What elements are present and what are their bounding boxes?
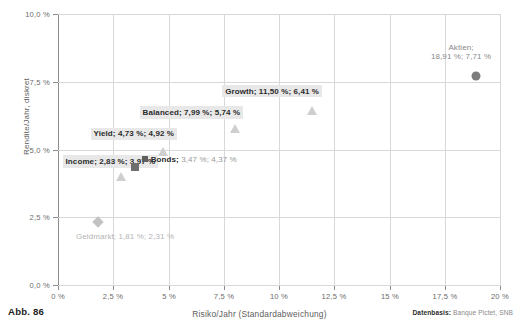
gridline-horizontal [58, 217, 501, 218]
x-tick-mark [279, 286, 280, 290]
data-point-bonds[interactable] [131, 163, 139, 171]
data-point-growth[interactable] [307, 106, 317, 115]
y-axis-title: Rendite/Jahr, diskret [22, 42, 31, 192]
data-label-aktien: Aktien;18,91 %; 7,71 % [431, 43, 491, 61]
x-tick-label: 17,5 % [433, 292, 458, 301]
x-tick-label: 12,5 % [322, 292, 347, 301]
x-tick-label: 10 % [270, 292, 288, 301]
data-point-aktien[interactable] [471, 72, 480, 81]
data-point-balanced[interactable] [230, 124, 240, 133]
legend-swatch-icon [142, 156, 148, 162]
x-tick-label: 2,5 % [103, 292, 123, 301]
x-tick-mark [445, 286, 446, 290]
x-tick-mark [58, 286, 59, 290]
data-point-yield[interactable] [158, 147, 168, 156]
data-label-geldmarkt: Geldmarkt; 1,81 %; 2,31 % [76, 232, 174, 241]
y-tick-mark [53, 82, 58, 83]
data-source-prefix: Datenbasis: [413, 309, 451, 316]
data-label-growth: Growth; 11,50 %; 6,41 % [222, 85, 322, 97]
gridline-horizontal [58, 150, 501, 151]
x-tick-mark [224, 286, 225, 290]
x-tick-mark [390, 286, 391, 290]
data-source: Datenbasis: Banque Pictet, SNB [413, 309, 514, 316]
y-tick-label: 10,0 % [2, 10, 50, 19]
y-tick-mark [53, 150, 58, 151]
figure-container: 0,0 %2,5 %5,0 %7,5 %10,0 % 0 %2,5 %5 %7,… [0, 0, 519, 325]
data-label-values: 18,91 %; 7,71 % [431, 52, 491, 61]
y-tick-label: 2,5 % [2, 213, 50, 222]
data-label-name: Bonds; [151, 155, 179, 164]
data-label-balanced: Balanced; 7,99 %; 5,74 % [140, 106, 244, 118]
data-label-yield: Yield; 4,73 %; 4,92 % [91, 128, 178, 140]
x-tick-label: 0 % [51, 292, 65, 301]
data-point-geldmarkt[interactable] [92, 217, 103, 228]
x-tick-mark [334, 286, 335, 290]
x-tick-mark [169, 286, 170, 290]
x-tick-label: 20 % [491, 292, 509, 301]
x-tick-mark [500, 286, 501, 290]
data-label-bonds: Bonds; 3,47 %; 4,37 % [142, 155, 237, 164]
y-tick-mark [53, 14, 58, 15]
y-tick-mark [53, 217, 58, 218]
gridline-horizontal [58, 82, 501, 83]
figure-number: Abb. 86 [8, 306, 44, 317]
y-tick-label: 0,0 % [2, 281, 50, 290]
data-point-income[interactable] [116, 172, 126, 181]
x-tick-label: 7,5 % [214, 292, 234, 301]
gridline-horizontal [58, 14, 501, 15]
data-source-text: Banque Pictet, SNB [451, 309, 513, 316]
x-tick-label: 15 % [381, 292, 399, 301]
data-label-values: 3,47 %; 4,37 % [179, 155, 237, 164]
x-tick-label: 5 % [162, 292, 176, 301]
data-label-name: Aktien; [431, 43, 491, 52]
x-tick-mark [113, 286, 114, 290]
